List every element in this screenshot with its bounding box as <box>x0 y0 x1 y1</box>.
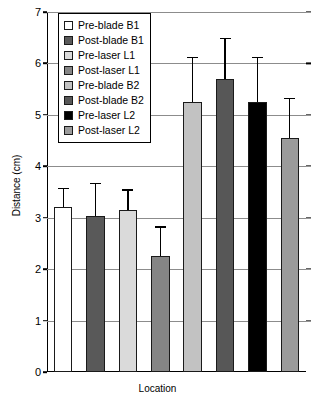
legend-item-label: Post-blade B2 <box>78 95 144 106</box>
error-bar-cap <box>187 57 198 58</box>
bar <box>119 210 138 372</box>
legend-item-label: Pre-blade B1 <box>78 20 139 31</box>
y-axis-title: Distance (cm) <box>11 126 22 246</box>
bar <box>151 256 170 372</box>
y-tick-label: 5 <box>35 109 41 121</box>
legend-swatch-icon <box>64 51 73 60</box>
legend-item: Post-blade B2 <box>64 93 144 108</box>
legend-swatch-icon <box>64 21 73 30</box>
tick-mark-right <box>306 166 311 167</box>
legend-item-label: Pre-laser L2 <box>78 110 135 121</box>
tick-mark-right <box>306 320 311 321</box>
error-bar-line <box>95 183 96 216</box>
legend-item-label: Post-blade B1 <box>78 35 144 46</box>
error-bar-line <box>289 98 290 138</box>
legend-item: Pre-blade B1 <box>64 18 144 33</box>
legend-swatch-icon <box>64 36 73 45</box>
y-tick-label: 6 <box>35 57 41 69</box>
tick-mark-right <box>306 269 311 270</box>
bar <box>248 102 267 372</box>
y-tick-label: 2 <box>35 263 41 275</box>
error-bar-line <box>224 38 225 79</box>
legend-swatch-icon <box>64 81 73 90</box>
tick-mark-right <box>306 217 311 218</box>
error-bar-line <box>257 57 258 102</box>
bar <box>281 138 300 372</box>
tick-mark-right <box>306 11 311 12</box>
error-bar-line <box>160 226 161 255</box>
legend-item-label: Post-laser L1 <box>78 65 140 76</box>
legend-item-label: Pre-blade B2 <box>78 80 139 91</box>
bar-chart: Distance (cm) 01234567 Pre-blade B1Post-… <box>0 0 315 402</box>
error-bar-cap <box>252 57 263 58</box>
bar <box>216 79 235 372</box>
legend-swatch-icon <box>64 66 73 75</box>
legend-item: Pre-laser L2 <box>64 108 144 123</box>
y-tick-label: 3 <box>35 212 41 224</box>
tick-mark-right <box>306 63 311 64</box>
legend-item: Post-laser L2 <box>64 123 144 138</box>
error-bar-line <box>63 188 64 208</box>
legend-item-label: Pre-laser L1 <box>78 50 135 61</box>
legend-swatch-icon <box>64 111 73 120</box>
error-bar-cap <box>220 38 231 39</box>
error-bar-line <box>192 57 193 102</box>
legend-item: Post-laser L1 <box>64 63 144 78</box>
bar <box>86 216 105 372</box>
y-tick-label: 0 <box>35 366 41 378</box>
legend-item-label: Post-laser L2 <box>78 125 140 136</box>
legend-swatch-icon <box>64 126 73 135</box>
legend-item: Pre-blade B2 <box>64 78 144 93</box>
bar <box>54 207 73 372</box>
y-tick-label: 7 <box>35 6 41 18</box>
error-bar-cap <box>284 98 295 99</box>
y-tick-label: 1 <box>35 315 41 327</box>
error-bar-cap <box>90 183 101 184</box>
error-bar-cap <box>122 189 133 190</box>
x-axis-title: Location <box>0 383 315 394</box>
legend-swatch-icon <box>64 96 73 105</box>
error-bar-line <box>127 189 128 210</box>
bar <box>183 102 202 372</box>
legend-item: Post-blade B1 <box>64 33 144 48</box>
legend-item: Pre-laser L1 <box>64 48 144 63</box>
legend: Pre-blade B1Post-blade B1Pre-laser L1Pos… <box>58 13 151 143</box>
error-bar-cap <box>58 188 69 189</box>
error-bar-cap <box>155 226 166 227</box>
tick-mark-right <box>306 114 311 115</box>
y-tick-label: 4 <box>35 160 41 172</box>
